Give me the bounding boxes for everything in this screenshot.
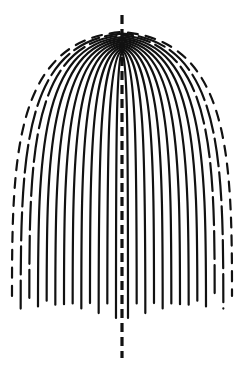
arch-lines-diagram <box>0 0 239 367</box>
